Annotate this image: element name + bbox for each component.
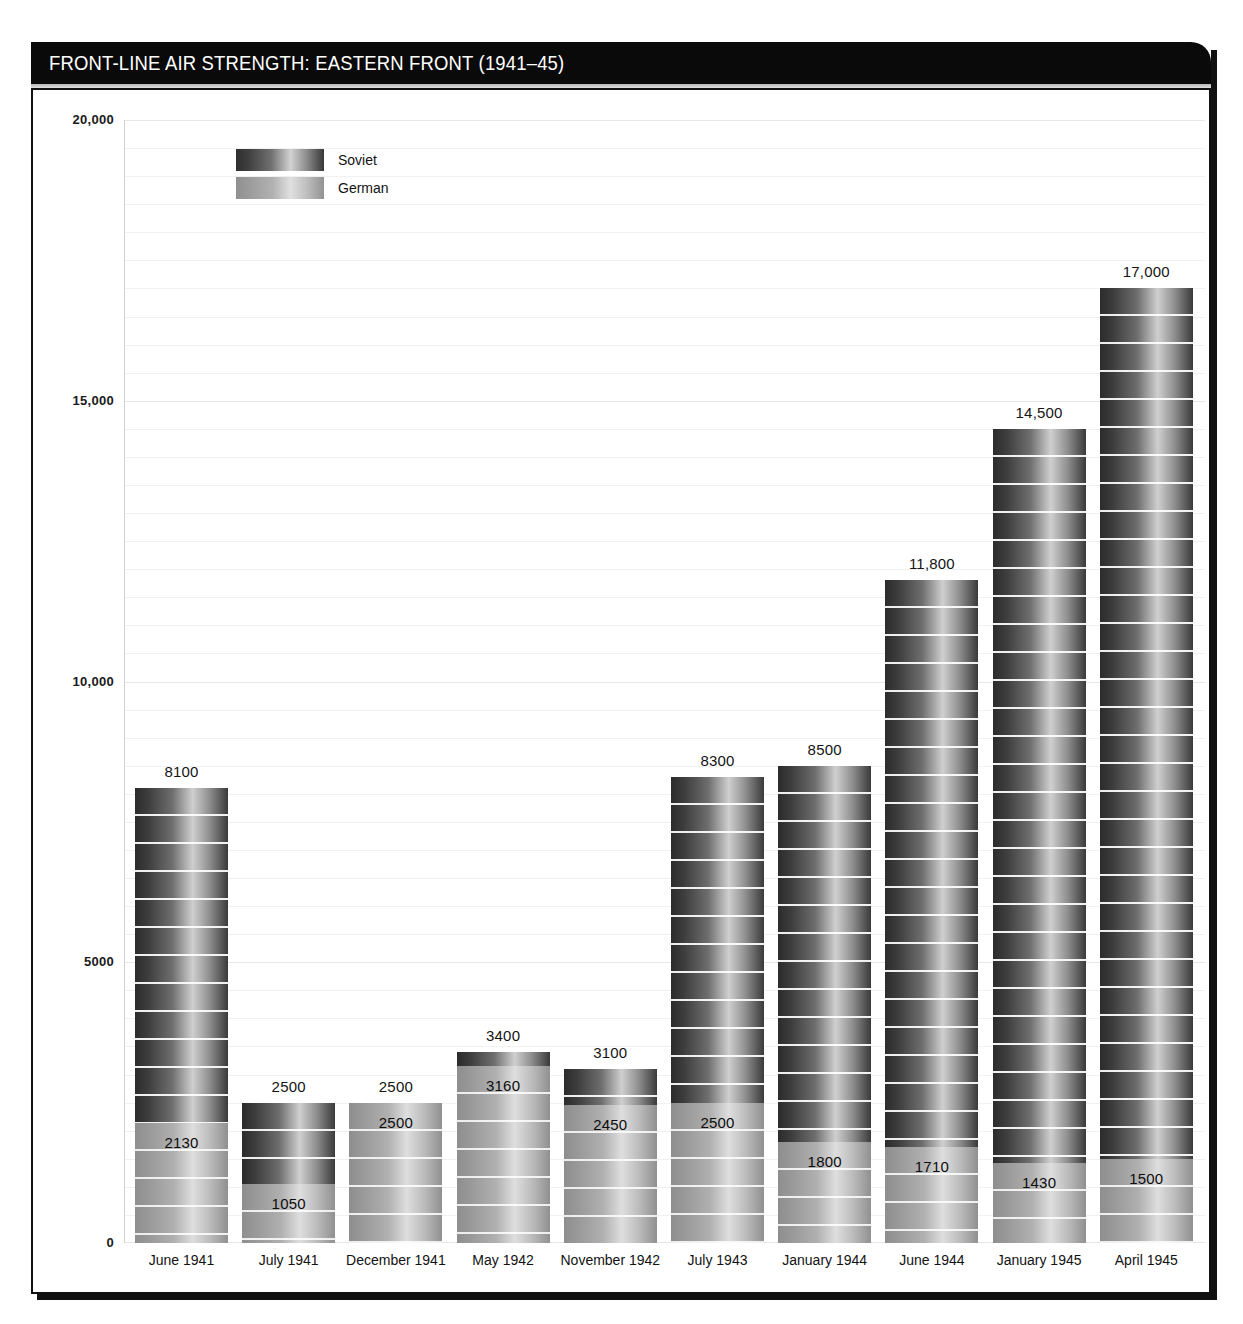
bar-soviet[interactable] [993,429,1086,1243]
bar-value-label-soviet: 8500 [745,741,905,758]
bar-soviet[interactable] [885,580,978,1243]
chart-title-bar: FRONT-LINE AIR STRENGTH: EASTERN FRONT (… [31,42,1211,84]
frame-drop-shadow-bottom [37,1294,1217,1300]
chart-legend: Soviet German [236,148,389,204]
bar-german[interactable] [242,1184,335,1243]
bar-value-label-soviet: 8100 [102,763,262,780]
bar-value-label-german: 1050 [242,1195,335,1212]
bar-series-group: 8100213025001050250025003400316031002450… [124,120,1205,1243]
x-axis-tick-label: April 1945 [1071,1252,1221,1268]
bar-group[interactable]: 17,0001500 [1100,288,1193,1243]
legend-swatch-soviet-icon [236,149,324,171]
bar-value-label-german: 1800 [778,1153,871,1170]
bar-value-label-german: 1500 [1100,1170,1193,1187]
bar-value-label-german: 2450 [564,1116,657,1133]
bar-value-label-german: 2130 [135,1134,228,1151]
bar-value-label-german: 2500 [671,1114,764,1131]
x-axis: June 1941July 1941December 1941May 1942N… [124,1252,1205,1280]
y-axis-tick-label: 0 [10,1235,114,1250]
frame-drop-shadow-right [1211,50,1217,1300]
legend-swatch-german-icon [236,177,324,199]
bar-value-label-soviet: 14,500 [959,404,1119,421]
chart-page: FRONT-LINE AIR STRENGTH: EASTERN FRONT (… [0,0,1243,1324]
bar-group[interactable]: 25002500 [349,1103,442,1243]
bar-group[interactable]: 85001800 [778,766,871,1243]
bar-group[interactable]: 25001050 [242,1103,335,1243]
bar-value-label-german: 1430 [993,1174,1086,1191]
legend-label-soviet: Soviet [338,152,377,168]
y-axis-tick-label: 20,000 [10,112,114,127]
bar-value-label-soviet: 3100 [530,1044,690,1061]
bar-group[interactable]: 31002450 [564,1069,657,1243]
bar-value-label-soviet: 2500 [316,1078,476,1095]
bar-value-label-german: 1710 [885,1158,978,1175]
y-axis-tick-label: 5000 [10,954,114,969]
bar-group[interactable]: 34003160 [457,1052,550,1243]
legend-item-german: German [236,176,389,200]
bar-value-label-german: 2500 [349,1114,442,1131]
y-axis-tick-label: 10,000 [10,674,114,689]
legend-label-german: German [338,180,389,196]
legend-item-soviet: Soviet [236,148,389,172]
bar-group[interactable]: 83002500 [671,777,764,1243]
bar-value-label-german: 3160 [457,1077,550,1094]
bar-group[interactable]: 11,8001710 [885,580,978,1243]
bar-value-label-soviet: 17,000 [1066,263,1226,280]
bar-soviet[interactable] [1100,288,1193,1243]
bar-group[interactable]: 81002130 [135,788,228,1243]
bar-value-label-soviet: 3400 [423,1027,583,1044]
page-title: FRONT-LINE AIR STRENGTH: EASTERN FRONT (… [49,51,564,75]
bar-value-label-soviet: 11,800 [852,555,1012,572]
y-axis-tick-label: 15,000 [10,393,114,408]
bar-group[interactable]: 14,5001430 [993,429,1086,1243]
